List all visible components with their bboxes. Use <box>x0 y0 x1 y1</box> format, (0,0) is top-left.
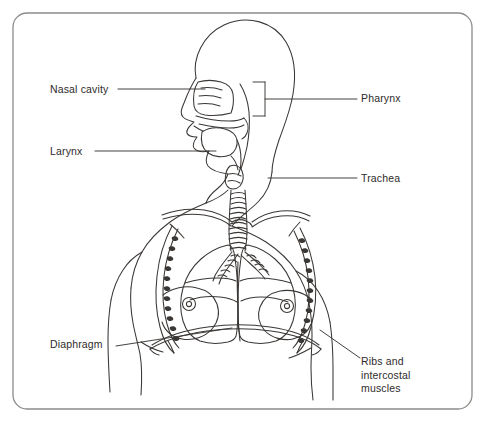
respiratory-system-figure: Nasal cavity Larynx Diaphragm Pharynx Tr… <box>0 0 484 428</box>
label-ribs-line-1: Ribs and <box>361 355 404 367</box>
label-ribs-line-3: muscles <box>361 382 401 394</box>
label-nasal-cavity: Nasal cavity <box>50 83 108 97</box>
figure-caption-partial <box>14 417 194 427</box>
label-trachea: Trachea <box>361 172 400 186</box>
label-pharynx: Pharynx <box>361 92 401 106</box>
label-ribs-and-intercostal-muscles: Ribs andintercostalmuscles <box>361 355 411 396</box>
label-larynx: Larynx <box>50 145 82 159</box>
label-diaphragm: Diaphragm <box>50 338 103 352</box>
anatomy-illustration <box>0 0 484 428</box>
label-ribs-line-2: intercostal <box>361 369 411 381</box>
